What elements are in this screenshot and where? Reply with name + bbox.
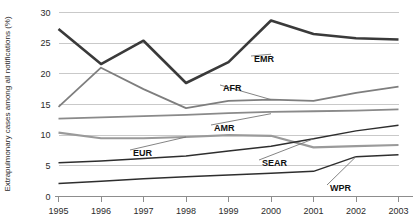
series-lines (59, 20, 399, 183)
x-tick-label: 1997 (133, 206, 153, 216)
x-tick-label: 2003 (388, 206, 408, 216)
y-tick-label: 10 (40, 130, 50, 140)
x-tick-label: 1995 (48, 206, 68, 216)
y-tick-label: 20 (40, 69, 50, 79)
x-tick-label: 2001 (303, 206, 323, 216)
chart-figure: 051015202530 199519961997199819992000200… (0, 0, 419, 224)
series-label-emr: EMR (254, 54, 275, 64)
series-label-wpr: WPR (330, 183, 351, 193)
y-tick-label: 25 (40, 38, 50, 48)
series-annotations: EMRAFRAMREURSEARWPR (130, 54, 356, 193)
y-tick-label: 0 (45, 192, 50, 202)
y-axis-title: Extrapulmonary cases among all notificat… (3, 16, 12, 192)
x-axis (55, 197, 413, 202)
y-tick-label: 5 (45, 161, 50, 171)
x-tick-label: 2002 (346, 206, 366, 216)
x-tick-label: 2000 (261, 206, 281, 216)
y-tick-label: 15 (40, 100, 50, 110)
y-axis-title-text: Extrapulmonary cases among all notificat… (3, 16, 12, 192)
series-label-amr: AMR (214, 123, 235, 133)
x-axis-tick-labels: 199519961997199819992000200120022003 (48, 206, 408, 216)
x-tick-label: 1996 (91, 206, 111, 216)
series-label-sear: SEAR (262, 158, 288, 168)
series-line-wpr (59, 155, 399, 184)
series-label-afr: AFR (223, 83, 242, 93)
series-line-amr (59, 109, 399, 118)
y-tick-label: 30 (40, 8, 50, 18)
series-label-eur: EUR (133, 148, 153, 158)
leader-line-sear (259, 139, 314, 160)
y-axis-tick-labels: 051015202530 (40, 8, 50, 202)
line-chart-canvas: 051015202530 199519961997199819992000200… (0, 0, 419, 224)
x-tick-label: 1998 (176, 206, 196, 216)
x-tick-label: 1999 (218, 206, 238, 216)
